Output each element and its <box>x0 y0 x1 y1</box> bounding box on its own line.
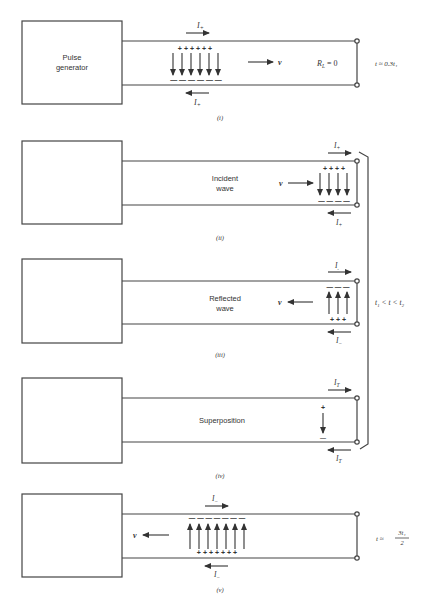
charge-positive: + <box>321 404 325 411</box>
terminal-bottom <box>355 83 359 87</box>
terminal-bottom <box>355 203 359 207</box>
time-interval-label: t₁ < t < t₂ <box>375 298 404 307</box>
terminal-top <box>355 159 359 163</box>
panel-v <box>22 494 409 577</box>
load-resistance-label: RL = 0 <box>316 59 337 69</box>
velocity-label: v <box>279 179 283 188</box>
time-denominator: 2 <box>400 539 404 546</box>
current-label-top: I− <box>211 494 219 504</box>
pulse-generator-label-line1: Pulse <box>63 53 82 62</box>
current-label-bottom: I+ <box>193 98 201 108</box>
velocity-label: v <box>278 58 282 67</box>
time-prefix: t ≈ <box>376 535 384 543</box>
charges-positive: + + + + + + <box>178 45 212 52</box>
charges-positive: + + + <box>330 316 346 323</box>
panel-caption: (ii) <box>216 234 224 242</box>
e-field-arrows <box>190 524 244 549</box>
generator-box <box>22 378 122 463</box>
velocity-label: v <box>278 298 282 307</box>
charges-positive: + + + + + + + <box>197 549 237 556</box>
transmission-line-reflection-diagram: Pulse generator I+ I+ + + + + + + — — — … <box>0 0 445 604</box>
charge-negative: — <box>320 435 326 441</box>
velocity-label: v <box>133 531 137 540</box>
panel-iii <box>22 259 359 343</box>
e-field-arrows <box>329 292 347 314</box>
terminal-top <box>355 279 359 283</box>
terminal-bottom <box>355 556 359 560</box>
e-field-arrows <box>173 53 218 75</box>
panel-caption: (i) <box>217 114 223 122</box>
wave-label-line1: Reflected <box>209 294 241 303</box>
charges-negative: — — — — — — — <box>189 514 246 521</box>
terminal-bottom <box>355 440 359 444</box>
current-label-top: IT <box>333 378 341 388</box>
panel-caption: (v) <box>216 586 223 594</box>
panel-ii <box>22 141 359 224</box>
panel-iv <box>22 378 359 463</box>
superposition-label: Superposition <box>199 416 245 425</box>
wave-label-line1: Incident <box>212 174 239 183</box>
terminal-top <box>355 396 359 400</box>
current-label-top: I+ <box>333 141 341 151</box>
pulse-generator-label-line2: generator <box>56 63 89 72</box>
wave-label-line2: wave <box>215 184 234 193</box>
time-numerator: 3t₁ <box>397 529 405 536</box>
generator-box <box>22 259 122 343</box>
terminal-bottom <box>355 322 359 326</box>
charges-negative: — — — — — — <box>170 76 222 83</box>
terminal-top <box>355 512 359 516</box>
terminal-top <box>355 39 359 43</box>
current-label-bottom: IT <box>335 454 343 464</box>
current-label-top: I+ <box>196 21 204 31</box>
generator-box <box>22 494 122 577</box>
generator-box <box>22 141 122 224</box>
time-interval-bracket <box>359 152 368 449</box>
current-label-bottom: I− <box>213 570 221 580</box>
time-label: t ≈ 0.3t₁ <box>375 60 397 68</box>
panel-caption: (iv) <box>215 472 224 480</box>
charges-negative: — — — <box>326 283 350 290</box>
e-field-arrows <box>320 173 347 195</box>
charges-positive: + + + + <box>323 165 345 172</box>
charges-negative: — — — — <box>318 197 350 204</box>
panel-caption: (iii) <box>215 351 225 359</box>
current-label-bottom: I− <box>335 336 343 346</box>
current-label-bottom: I+ <box>335 218 343 228</box>
current-label-top: I. <box>334 261 339 271</box>
wave-label-line2: wave <box>215 304 234 313</box>
